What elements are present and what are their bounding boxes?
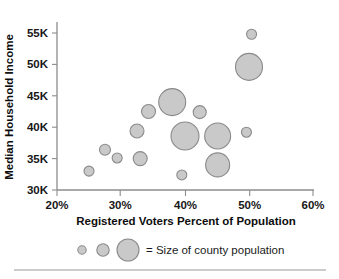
data-bubble [142, 105, 156, 119]
x-tick-label-20: 20% [45, 199, 68, 211]
y-tick-label-35k: 35K [27, 153, 49, 165]
data-bubble [236, 53, 263, 80]
data-bubble [241, 127, 251, 137]
data-bubble [247, 29, 257, 39]
y-tick-label-30k: 30K [27, 184, 49, 196]
legend-bubble [97, 244, 109, 256]
legend-bubble [78, 246, 86, 254]
y-tick-label-55k: 55K [27, 27, 49, 39]
y-tick-label-45k: 45K [27, 90, 49, 102]
data-bubble [171, 122, 199, 150]
legend-label: = Size of county population [146, 244, 284, 256]
y-axis-ticks [52, 33, 57, 190]
data-bubble [84, 166, 94, 176]
data-bubble [193, 106, 206, 119]
data-bubble [133, 152, 147, 166]
x-tick-label-60: 60% [301, 199, 324, 211]
x-tick-label-30: 30% [109, 199, 132, 211]
x-tick-label-40: 40% [174, 199, 197, 211]
legend [78, 239, 139, 261]
y-tick-label-50k: 50K [27, 58, 49, 70]
x-axis-title: Registered Voters Percent of Population [76, 215, 296, 227]
x-axis-ticks [57, 190, 313, 196]
bubble-series [84, 29, 263, 180]
data-bubble [206, 153, 230, 177]
legend-bubble [117, 239, 139, 261]
data-bubble [177, 170, 187, 180]
data-bubble [112, 153, 122, 163]
y-tick-label-40k: 40K [27, 121, 49, 133]
y-axis-title: Median Household Income [3, 34, 15, 180]
data-bubble [130, 124, 144, 138]
data-bubble [100, 144, 111, 155]
bubble-chart: 30K 35K 40K 45K 50K 55K 20% 30% 40% 50% … [0, 0, 339, 279]
data-bubble [159, 89, 186, 116]
data-bubble [205, 123, 231, 149]
x-tick-label-50: 50% [238, 199, 261, 211]
